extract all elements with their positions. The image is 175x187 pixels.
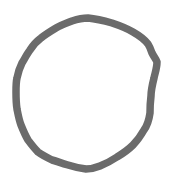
hand-drawn-circle-svg [0, 0, 175, 187]
drawing-canvas [0, 0, 175, 187]
